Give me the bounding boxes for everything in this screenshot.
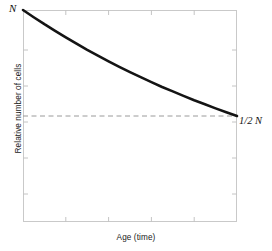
end-value-annotation: 1/2 N <box>239 115 262 126</box>
decay-curve <box>23 10 237 116</box>
y-axis-label: Relative number of cells <box>14 44 23 174</box>
top-axis-ticks <box>66 10 194 15</box>
right-axis-ticks <box>232 50 237 194</box>
start-value-annotation: N <box>9 2 16 14</box>
x-axis-label: Age (time) <box>0 233 272 242</box>
plot-canvas <box>23 10 237 222</box>
chart-figure: Relative number of cells Age (time) N 1/… <box>0 0 272 251</box>
bottom-axis-ticks <box>66 217 194 222</box>
left-axis-ticks <box>23 50 28 194</box>
